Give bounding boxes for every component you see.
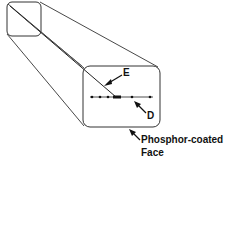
label-face-line1: Phosphor-coated xyxy=(141,134,223,145)
label-e: E xyxy=(123,67,130,78)
label-d: D xyxy=(147,110,154,121)
label-face-line2: Face xyxy=(141,147,164,158)
